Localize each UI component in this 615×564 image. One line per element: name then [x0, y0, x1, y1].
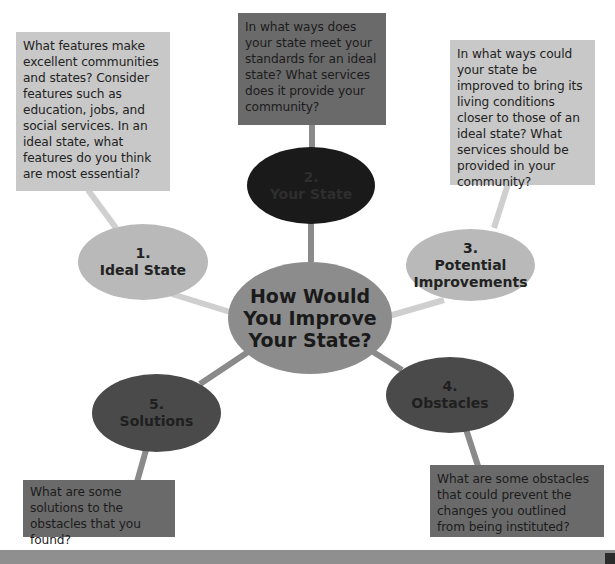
node-title: Solutions [120, 413, 194, 430]
prompt-box-obstacles: What are some obstacles that could preve… [430, 465, 604, 537]
node-obstacles: 4. Obstacles [386, 357, 514, 433]
bottom-band [0, 550, 615, 564]
connector-box3-node3 [494, 184, 508, 228]
prompt-text: What are some obstacles that could preve… [437, 472, 589, 534]
node-central-question: How Would You Improve Your State? [228, 262, 392, 374]
prompt-box-your-state: In what ways does your state meet your s… [238, 13, 386, 125]
node-your-state: 2. Your State [247, 147, 375, 224]
node-title: Ideal State [100, 262, 186, 279]
node-title: Obstacles [411, 395, 488, 412]
connector-node1-center [172, 294, 230, 312]
connector-center-node5 [200, 352, 248, 384]
concept-web-diagram: What features make excellent communities… [0, 0, 615, 564]
node-title: Potential Improvements [411, 257, 531, 291]
prompt-text: In what ways does your state meet your s… [245, 20, 376, 114]
corner-marker [605, 553, 615, 564]
prompt-text: In what ways could your state be improve… [457, 47, 583, 189]
central-question-title: How Would You Improve Your State? [242, 285, 378, 351]
prompt-box-solutions: What are some solutions to the obstacles… [23, 480, 175, 537]
connector-center-node4 [370, 350, 402, 370]
connector-node5-box5 [137, 450, 146, 482]
node-number: 2. [303, 169, 318, 186]
prompt-box-ideal-state: What features make excellent communities… [16, 32, 170, 191]
node-title: Your State [270, 186, 353, 203]
prompt-text: What features make excellent communities… [23, 39, 159, 181]
node-number: 1. [135, 245, 150, 262]
node-potential-improvements: 3. Potential Improvements [406, 229, 535, 301]
node-number: 4. [442, 378, 457, 395]
prompt-box-potential-improvements: In what ways could your state be improve… [450, 40, 595, 185]
node-solutions: 5. Solutions [92, 374, 221, 452]
node-number: 3. [463, 240, 478, 257]
node-number: 5. [149, 396, 164, 413]
connector-box1-node1 [88, 190, 116, 228]
node-ideal-state: 1. Ideal State [78, 224, 208, 300]
